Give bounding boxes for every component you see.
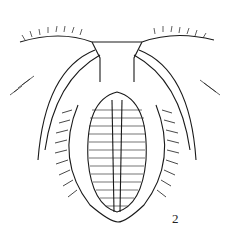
limb-fringe (55, 110, 179, 197)
right-antennule (142, 35, 214, 42)
setae (10, 26, 220, 95)
larva-drawing (0, 0, 234, 235)
figure-number: 2 (172, 211, 179, 227)
left-antennule (20, 36, 92, 42)
segment-hatching (89, 110, 145, 206)
illustration: 2 (0, 0, 234, 235)
